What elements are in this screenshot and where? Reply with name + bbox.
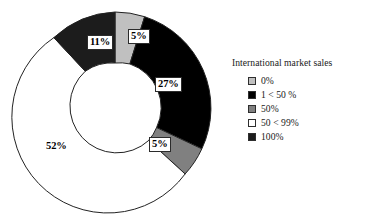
slice-label-1-lt-50-percent: 27%	[155, 77, 182, 92]
legend: International market sales 0% 1 < 50 % 5…	[232, 57, 370, 144]
slice-label-100-percent: 11%	[87, 35, 113, 50]
legend-label-0-percent: 0%	[261, 75, 274, 87]
legend-swatch-icon-50-percent	[248, 105, 256, 113]
legend-item-50-percent[interactable]: 50%	[248, 102, 370, 116]
donut-chart-svg	[8, 4, 223, 214]
legend-swatch-icon-100-percent	[248, 133, 256, 141]
chart-page: 11% 5% 27% 5% 52% International market s…	[0, 0, 372, 218]
legend-swatch-icon-50-lt-99-percent	[248, 119, 256, 127]
legend-item-100-percent[interactable]: 100%	[248, 130, 370, 144]
legend-item-1-lt-50-percent[interactable]: 1 < 50 %	[248, 88, 370, 102]
legend-label-50-percent: 50%	[261, 103, 279, 115]
slice-label-50-percent: 5%	[149, 137, 171, 152]
legend-swatch-icon-0-percent	[248, 77, 256, 85]
donut-chart: 11% 5% 27% 5% 52%	[8, 4, 223, 214]
slice-label-0-percent: 5%	[128, 29, 150, 44]
legend-swatch-icon-1-lt-50-percent	[248, 91, 256, 99]
legend-label-50-lt-99-percent: 50 < 99%	[261, 117, 299, 129]
slice-label-50-lt-99-percent: 52%	[46, 140, 67, 152]
legend-title: International market sales	[232, 57, 370, 69]
legend-item-0-percent[interactable]: 0%	[248, 74, 370, 88]
legend-item-50-lt-99-percent[interactable]: 50 < 99%	[248, 116, 370, 130]
legend-label-1-lt-50-percent: 1 < 50 %	[261, 89, 296, 101]
legend-label-100-percent: 100%	[261, 131, 284, 143]
